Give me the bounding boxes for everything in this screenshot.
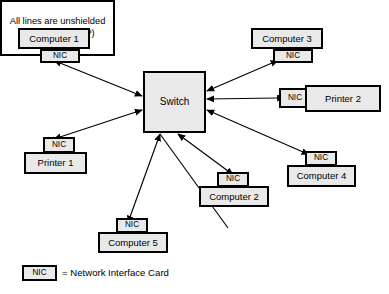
nic-box-computer-2: NIC [217,172,249,187]
device-box-printer-1: Printer 1 [24,152,87,174]
device-label: Computer 4 [297,171,347,181]
link-printer-2 [207,98,278,99]
device-label: Computer 2 [209,192,259,202]
device-label: Printer 2 [325,94,361,104]
switch-node: Switch [143,71,206,133]
nic-label: NIC [288,94,302,102]
nic-label: NIC [52,141,66,149]
legend-nic-label: NIC [32,269,46,277]
device-label: Computer 5 [108,238,158,248]
link-computer-3 [207,63,272,91]
nic-box-computer-5: NIC [116,218,148,233]
switch-label: Switch [160,97,189,107]
legend-description: = Network Interface Card [62,268,169,278]
link-computer-2 [178,134,228,171]
nic-label: NIC [125,221,139,229]
device-label: Computer 1 [29,34,79,44]
nic-label: NIC [53,52,67,60]
nic-box-computer-4: NIC [305,151,337,166]
nic-box-printer-1: NIC [43,137,75,153]
device-box-printer-2: Printer 2 [305,85,381,112]
network-diagram: Switch NICComputer 1NICComputer 3NICPrin… [0,0,389,294]
link-computer-1 [60,63,142,96]
nic-box-computer-3: NIC [273,49,313,63]
device-label: Computer 3 [262,34,312,44]
nic-label: NIC [226,175,240,183]
nic-box-computer-1: NIC [40,49,80,63]
device-box-computer-1: Computer 1 [18,28,90,49]
link-printer-1 [60,110,142,137]
device-box-computer-4: Computer 4 [287,165,356,187]
legend-nic-box: NIC [22,265,57,281]
nic-label: NIC [314,154,328,162]
device-box-computer-5: Computer 5 [98,232,168,253]
link-computer-4 [207,110,303,152]
device-label: Printer 1 [38,158,74,168]
nic-label: NIC [286,52,300,60]
device-box-computer-2: Computer 2 [199,186,269,207]
link-computer-5 [130,134,160,217]
device-box-computer-3: Computer 3 [251,28,323,49]
